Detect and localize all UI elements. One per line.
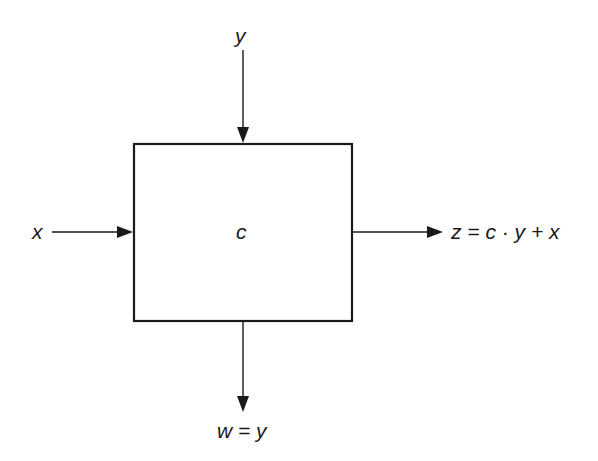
arrowhead-icon <box>117 226 133 238</box>
input-arrow-y <box>237 50 249 143</box>
input-label-x: x <box>32 221 43 242</box>
block-label-c: c <box>236 221 247 242</box>
arrowhead-icon <box>237 127 249 143</box>
arrowhead-icon <box>237 396 249 412</box>
arrowhead-icon <box>427 226 443 238</box>
output-arrow-z <box>353 226 443 238</box>
output-label-w: w = y <box>217 420 267 441</box>
input-arrow-x <box>52 226 133 238</box>
output-label-z: z = c · y + x <box>451 221 560 242</box>
output-arrow-w <box>237 322 249 412</box>
input-label-y: y <box>235 25 246 46</box>
